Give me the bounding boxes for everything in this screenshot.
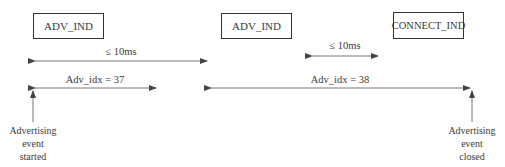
caption-line: event bbox=[9, 137, 56, 150]
caption-line: closed bbox=[448, 150, 495, 163]
event-label-2: Adv_idx = 38 bbox=[311, 74, 369, 85]
caption-line: Advertising bbox=[448, 124, 495, 137]
event-label-1: Adv_idx = 37 bbox=[66, 74, 124, 85]
packet-adv-ind-1: ADV_IND bbox=[33, 13, 104, 39]
packet-label: ADV_IND bbox=[44, 20, 93, 32]
packet-label: ADV_IND bbox=[232, 20, 281, 32]
packet-adv-ind-2: ADV_IND bbox=[221, 13, 292, 39]
caption-line: event bbox=[448, 137, 495, 150]
interval-label-2: ≤ 10ms bbox=[329, 40, 360, 51]
packet-label: CONNECT_IND bbox=[392, 20, 466, 31]
packet-connect-ind: CONNECT_IND bbox=[393, 12, 464, 39]
caption-line: started bbox=[9, 150, 56, 163]
caption-line: Advertising bbox=[9, 124, 56, 137]
start-marker-caption: Advertising event started bbox=[9, 124, 56, 163]
interval-label-1: ≤ 10ms bbox=[105, 46, 136, 57]
end-marker-caption: Advertising event closed bbox=[448, 124, 495, 163]
